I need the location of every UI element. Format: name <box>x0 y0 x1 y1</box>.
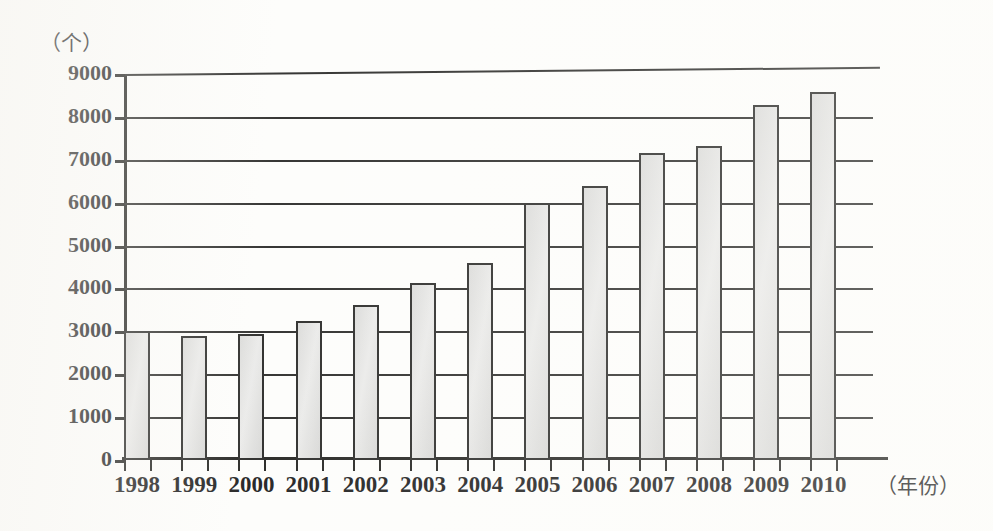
y-tick-label: 7000 <box>28 148 112 170</box>
bar <box>467 263 493 460</box>
x-tick-label: 2001 <box>279 472 339 498</box>
y-tick-mark <box>115 203 125 206</box>
bar <box>582 186 608 460</box>
x-tick-mark <box>150 460 152 471</box>
x-tick-mark <box>181 460 183 471</box>
x-tick-label: 1999 <box>164 472 224 498</box>
x-tick-mark <box>608 460 610 471</box>
x-tick-mark <box>779 460 781 471</box>
bar <box>238 334 264 460</box>
gridline <box>124 67 880 76</box>
x-tick-mark <box>836 460 838 471</box>
x-tick-label: 2009 <box>736 472 796 498</box>
plot-area <box>124 74 876 460</box>
bar <box>296 321 322 460</box>
x-tick-mark <box>410 460 412 471</box>
bar <box>353 305 379 460</box>
x-tick-mark <box>264 460 266 471</box>
bar <box>181 336 207 460</box>
y-tick-mark <box>115 160 125 163</box>
x-tick-mark <box>753 460 755 471</box>
x-tick-mark <box>550 460 552 471</box>
bar <box>124 331 150 460</box>
x-tick-mark <box>582 460 584 471</box>
y-tick-label: 6000 <box>28 191 112 213</box>
y-tick-label: 9000 <box>28 62 112 84</box>
x-axis-tick-labels: （年份） 19981999200020012002200320042005200… <box>0 472 993 522</box>
x-tick-mark <box>493 460 495 471</box>
x-tick-mark <box>124 460 126 471</box>
y-tick-mark <box>115 74 125 77</box>
x-tick-label: 2000 <box>221 472 281 498</box>
x-tick-mark <box>810 460 812 471</box>
y-axis-tick-labels: 0100020003000400050006000700080009000 <box>28 0 112 531</box>
x-tick-mark <box>696 460 698 471</box>
y-tick-label: 3000 <box>28 319 112 341</box>
bar <box>524 203 550 460</box>
bar <box>410 283 436 460</box>
y-tick-mark <box>115 288 125 291</box>
y-tick-mark <box>115 117 125 120</box>
bar <box>753 105 779 460</box>
bar <box>639 153 665 460</box>
x-tick-mark <box>322 460 324 471</box>
x-tick-label: 1998 <box>107 472 167 498</box>
y-tick-label: 1000 <box>28 405 112 427</box>
bar-chart: （个） 010002000300040005000600070008000900… <box>0 0 993 531</box>
x-tick-mark <box>379 460 381 471</box>
x-tick-mark <box>639 460 641 471</box>
x-tick-mark <box>467 460 469 471</box>
x-tick-label: 2005 <box>507 472 567 498</box>
bar <box>696 146 722 460</box>
x-tick-mark <box>238 460 240 471</box>
x-tick-label: 2002 <box>336 472 396 498</box>
y-tick-label: 5000 <box>28 234 112 256</box>
x-tick-mark <box>524 460 526 471</box>
y-tick-mark <box>115 246 125 249</box>
x-tick-mark <box>436 460 438 471</box>
x-tick-mark <box>722 460 724 471</box>
x-axis-unit-label: （年份） <box>876 473 960 499</box>
y-tick-label: 8000 <box>28 105 112 127</box>
x-tick-mark <box>665 460 667 471</box>
x-tick-mark <box>296 460 298 471</box>
x-tick-label: 2008 <box>679 472 739 498</box>
y-tick-label: 2000 <box>28 362 112 384</box>
y-tick-label: 4000 <box>28 276 112 298</box>
x-tick-mark <box>207 460 209 471</box>
x-tick-label: 2007 <box>622 472 682 498</box>
x-tick-label: 2003 <box>393 472 453 498</box>
x-tick-mark <box>353 460 355 471</box>
x-tick-label: 2010 <box>793 472 853 498</box>
x-tick-label: 2006 <box>565 472 625 498</box>
y-tick-label: 0 <box>28 448 112 470</box>
bar <box>810 92 836 460</box>
x-tick-label: 2004 <box>450 472 510 498</box>
